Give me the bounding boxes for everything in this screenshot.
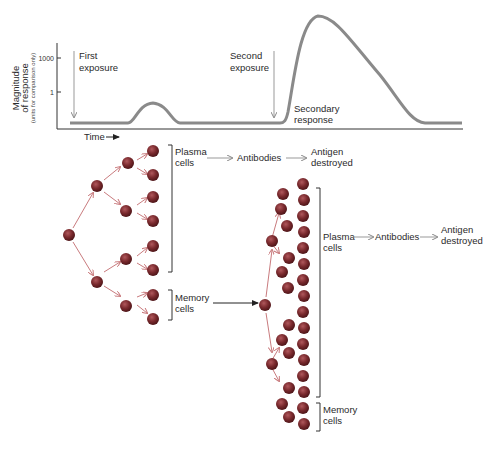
cell — [297, 210, 309, 222]
cell — [283, 319, 295, 331]
cell — [120, 205, 132, 217]
plasma-label-1: Plasma — [323, 231, 355, 242]
cell — [283, 347, 295, 359]
cell — [276, 398, 288, 410]
response-graph: 1000 1 Magnitude of response (units for … — [10, 16, 463, 142]
cell — [91, 276, 103, 288]
cell — [147, 313, 159, 325]
cell — [276, 334, 288, 346]
cell — [297, 338, 309, 350]
antibodies-label: Antibodies — [237, 152, 282, 163]
first-exposure-label-2: exposure — [79, 62, 118, 73]
y-tick-1000: 1000 — [38, 55, 54, 62]
cell — [91, 180, 103, 192]
cell — [298, 354, 310, 366]
cell — [266, 235, 278, 247]
plasma-label-1: Plasma — [175, 146, 207, 157]
cell — [122, 157, 134, 169]
cell — [297, 274, 309, 286]
cell — [297, 402, 309, 414]
cell — [298, 418, 310, 430]
cell — [147, 240, 159, 252]
cell — [297, 178, 309, 190]
cell — [147, 215, 159, 227]
memory-label-1: Memory — [323, 404, 358, 415]
cell — [147, 289, 159, 301]
y-axis-label: Magnitude of response (units for compari… — [10, 53, 36, 124]
secondary-response-label-1: Secondary — [294, 103, 340, 114]
second-exposure-label-1: Second — [230, 50, 262, 61]
immune-response-diagram: 1000 1 Magnitude of response (units for … — [0, 0, 498, 450]
antigen-label-2: destroyed — [311, 157, 353, 168]
cell — [266, 358, 278, 370]
cell — [63, 229, 75, 241]
cell — [298, 322, 310, 334]
y-tick-1: 1 — [50, 89, 54, 96]
x-axis-label: Time — [84, 131, 105, 142]
cell — [297, 306, 309, 318]
plasma-label-2: cells — [323, 242, 342, 253]
cell — [283, 382, 295, 394]
plasma-bracket — [168, 145, 172, 272]
plasma-label-2: cells — [175, 157, 194, 168]
secondary-response-label-2: response — [294, 114, 333, 125]
cell — [283, 411, 295, 423]
memory-bracket — [316, 403, 320, 431]
cell — [282, 282, 294, 294]
cell — [298, 258, 310, 270]
cell — [147, 264, 159, 276]
memory-label-1: Memory — [175, 292, 210, 303]
cell — [298, 386, 310, 398]
cell — [120, 300, 132, 312]
memory-label-2: cells — [175, 303, 194, 314]
first-exposure-label-1: First — [79, 50, 98, 61]
cell — [120, 253, 132, 265]
plasma-bracket — [316, 188, 320, 397]
cell — [259, 299, 271, 311]
cell — [147, 191, 159, 203]
antigen-label-2: destroyed — [441, 235, 483, 246]
second-exposure-label-2: exposure — [230, 62, 269, 73]
cell — [297, 370, 309, 382]
cell — [298, 194, 310, 206]
cell — [147, 169, 159, 181]
svg-text:of response: of response — [19, 63, 30, 113]
memory-label-2: cells — [323, 415, 342, 426]
cell — [283, 252, 295, 264]
memory-bracket — [168, 290, 172, 320]
cell — [298, 226, 310, 238]
antibodies-label: Antibodies — [375, 231, 420, 242]
cell — [275, 203, 287, 215]
cell — [298, 290, 310, 302]
secondary-response-tree: Plasma cells Antibodies Antigen destroye… — [259, 178, 483, 431]
cell — [297, 242, 309, 254]
antigen-label-1: Antigen — [311, 146, 343, 157]
cell — [277, 188, 289, 200]
cell — [276, 266, 288, 278]
cell — [147, 145, 159, 157]
cell — [281, 220, 293, 232]
svg-text:(units for comparison only): (units for comparison only) — [30, 53, 36, 124]
antigen-label-1: Antigen — [441, 224, 473, 235]
